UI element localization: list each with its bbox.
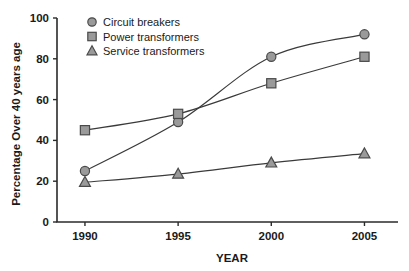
y-axis-tick-label: 80 [36,53,49,65]
x-axis-tick-label: 1990 [72,230,98,242]
legend-label: Service transformers [103,45,205,57]
data-point-square [80,126,89,135]
legend-item: Power transformers [88,31,200,43]
chart-legend: Circuit breakersPower transformersServic… [87,16,205,57]
series-service-transformers [79,148,369,186]
x-axis-tick-label: 2000 [258,230,284,242]
data-point-triangle [87,46,97,55]
data-point-triangle [359,148,370,158]
x-axis-tick-label: 2005 [352,230,378,242]
x-axis-title: YEAR [216,252,249,264]
y-axis-tick-label: 20 [36,175,49,187]
series-line [85,57,365,130]
y-axis-tick-labels: 020406080100 [30,12,49,228]
line-chart: 020406080100 1990199520002005 Percentage… [0,0,409,271]
data-point-circle [360,30,369,39]
data-point-square [88,32,96,40]
y-axis-title: Percentage Over 40 years age [10,42,22,206]
data-point-square [267,79,276,88]
legend-label: Circuit breakers [103,16,181,28]
legend-item: Service transformers [87,45,205,57]
data-point-circle [88,18,96,26]
chart-container: 020406080100 1990199520002005 Percentage… [0,0,409,271]
x-axis-tick-labels: 1990199520002005 [72,230,378,242]
series-power-transformers [80,52,369,135]
data-point-square [174,109,183,118]
y-axis-tick-label: 40 [36,134,49,146]
y-axis-tick-label: 0 [43,216,49,228]
y-axis-tick-label: 60 [36,94,49,106]
x-axis-tick-label: 1995 [165,230,191,242]
legend-label: Power transformers [103,31,199,43]
series-line [85,154,365,183]
y-axis-tick-label: 100 [30,12,49,24]
data-point-circle [80,166,89,175]
legend-item: Circuit breakers [88,16,181,28]
data-point-square [360,52,369,61]
data-point-circle [267,52,276,61]
